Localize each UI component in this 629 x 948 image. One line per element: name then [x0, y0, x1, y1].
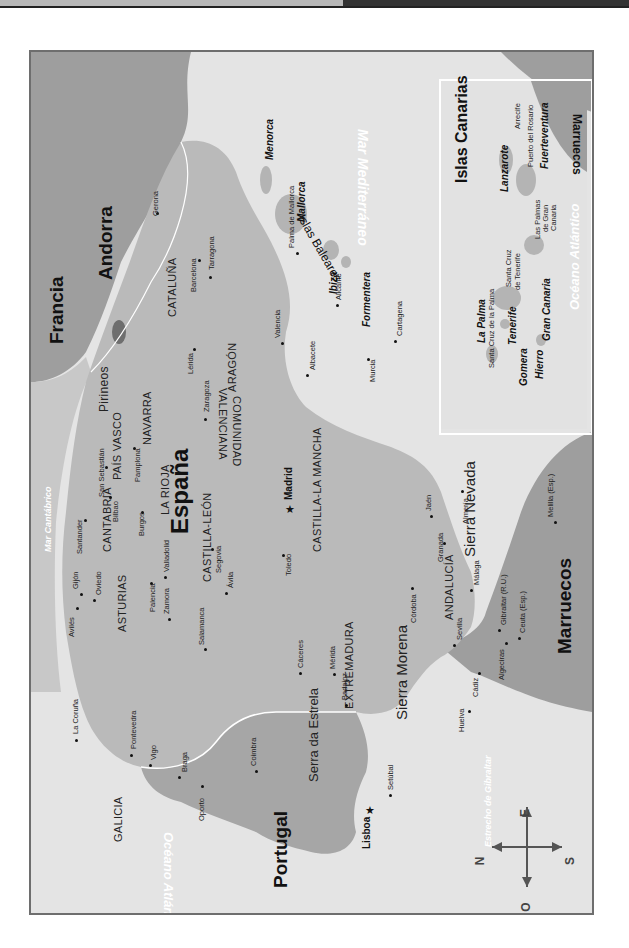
- city-label-pamplona: Pamplona: [133, 448, 142, 482]
- country-label-andorra: Andorra: [95, 206, 117, 280]
- region-label-comunidad: COMUNIDAD: [231, 396, 243, 467]
- city-label-gibraltar: Gibraltar (R.U.): [499, 574, 508, 625]
- city-label-avila: Ávila: [226, 572, 235, 588]
- city-dot-icon: [470, 589, 473, 592]
- island-label-gran-canaria: Gran Canaria: [541, 278, 552, 341]
- city-label-tarragona: Tarragona: [207, 236, 216, 270]
- city-label-malaga: Málaga: [472, 560, 481, 585]
- city-label-santa-cruz-palma: Santa Cruz de la Palma: [487, 289, 496, 368]
- city-label-zaragoza: Zaragoza: [202, 380, 211, 412]
- city-label-salamanca: Salamanca: [197, 607, 206, 645]
- region-label-aragon: ARAGÓN: [226, 343, 238, 392]
- city-dot-icon: [498, 629, 501, 632]
- map-frame: Francia Andorra España Portugal Marrueco…: [29, 50, 594, 915]
- city-label-coimbra: Coimbra: [249, 738, 258, 766]
- island-label-gomera: Gomera: [518, 348, 529, 386]
- island-label-hierro: Hierro: [534, 350, 545, 379]
- region-label-andalucia: ANDALUCÍA: [443, 554, 455, 620]
- capital-label-lisboa: Lisboa: [361, 817, 372, 849]
- city-label-algeciras: Algeciras: [497, 649, 506, 680]
- city-label-segovia: Segovia: [214, 546, 223, 573]
- city-dot-icon: [306, 374, 309, 377]
- canarias-inset: Islas Canarias Lanzarote Arrecife Puerto…: [439, 79, 593, 435]
- region-label-valenciana: VALENCIANA: [217, 388, 229, 460]
- island-label-menorca: Menorca: [264, 119, 275, 160]
- city-dot-icon: [193, 348, 196, 351]
- city-dot-icon: [168, 618, 171, 621]
- city-label-caceres: Cáceres: [296, 640, 305, 668]
- city-dot-icon: [198, 259, 201, 262]
- city-dot-icon: [149, 764, 152, 767]
- city-dot-icon: [84, 519, 87, 522]
- capital-star-icon-lisboa: ★: [365, 805, 375, 816]
- city-label-valencia: Valencia: [273, 310, 282, 338]
- country-label-morocco: Marruecos: [554, 558, 576, 654]
- city-label-arrecife: Arrecife: [513, 103, 522, 129]
- compass-rose: N S E O: [472, 792, 582, 902]
- city-dot-icon: [468, 710, 471, 713]
- city-dot-icon: [345, 704, 348, 707]
- city-label-braga: Braga: [180, 752, 189, 772]
- city-dot-icon: [178, 776, 181, 779]
- city-label-aviles: Avilés: [67, 617, 76, 637]
- city-label-lerida: Lérida: [186, 353, 195, 374]
- city-label-san-sebastian: San Sebastián: [97, 448, 106, 497]
- city-label-puerto-rosario: Puerto del Rosario: [526, 105, 535, 167]
- city-dot-icon: [204, 418, 207, 421]
- city-dot-icon: [505, 642, 508, 645]
- city-label-gijon: Gijón: [71, 571, 80, 589]
- city-label-cartagena: Cartagena: [395, 301, 404, 336]
- city-label-cordoba: Córdoba: [409, 594, 418, 623]
- city-dot-icon: [76, 607, 79, 610]
- city-dot-icon: [394, 340, 397, 343]
- island-label-formentera: Formentera: [361, 272, 372, 327]
- island-label-fuerteventura: Fuerteventura: [539, 102, 550, 169]
- country-label-france: Francia: [46, 276, 68, 344]
- city-label-santander: Santander: [75, 519, 84, 554]
- region-label-castilla-leon: CASTILLA-LEÓN: [201, 493, 213, 582]
- city-dot-icon: [80, 593, 83, 596]
- island-label-tenerife: Tenerife: [507, 306, 518, 345]
- city-dot-icon: [554, 521, 557, 524]
- city-label-oviedo: Oviedo: [94, 571, 103, 595]
- city-label-burgos: Burgos: [137, 512, 146, 536]
- city-label-valladolid: Valladolid: [162, 540, 171, 572]
- inset-title-islas-canarias: Islas Canarias: [453, 75, 471, 183]
- city-label-barcelona: Barcelona: [189, 258, 198, 292]
- region-label-asturias: ASTURIAS: [116, 575, 128, 632]
- island-label-lanzarote: Lanzarote: [499, 145, 510, 192]
- city-label-la-coruna: La Coruña: [71, 699, 80, 734]
- mountain-label-serra-estrela: Serra da Estrela: [306, 688, 321, 782]
- city-label-las-palmas-3: Canaria: [549, 205, 558, 231]
- city-dot-icon: [296, 252, 299, 255]
- city-label-merida: Mérida: [328, 646, 337, 669]
- region-label-pais-vasco: PAÍS VASCO: [111, 412, 123, 480]
- city-label-ceuta: Ceuta (Esp.): [518, 591, 527, 633]
- compass-label-n: N: [473, 857, 487, 866]
- city-dot-icon: [461, 490, 464, 493]
- region-label-cataluna: CATALUÑA: [166, 258, 178, 317]
- city-dot-icon: [201, 785, 204, 788]
- compass-label-s: S: [563, 857, 577, 865]
- compass-label-o: O: [519, 902, 533, 911]
- city-label-palma: Palma de Mallorca: [287, 186, 296, 248]
- mountain-label-sierra-morena: Sierra Morena: [393, 625, 410, 720]
- top-bar-divider: [0, 6, 629, 8]
- island-label-la-palma: La Palma: [476, 299, 487, 343]
- city-dot-icon: [430, 515, 433, 518]
- city-label-sevilla: Sevilla: [455, 618, 464, 640]
- city-dot-icon: [333, 673, 336, 676]
- city-label-bilbao: Bilbao: [111, 501, 120, 522]
- city-dot-icon: [299, 672, 302, 675]
- sea-label-atlantico: Océano Atlántico: [161, 832, 176, 915]
- city-label-setubal: Setúbal: [386, 765, 395, 790]
- city-label-almeria: Almería: [461, 498, 470, 524]
- city-dot-icon: [93, 599, 96, 602]
- compass-label-e: E: [518, 809, 532, 817]
- city-dot-icon: [518, 637, 521, 640]
- city-dot-icon: [281, 342, 284, 345]
- city-label-palencia: Palencia: [148, 583, 157, 612]
- city-label-melilla: Melilla (Esp.): [546, 474, 555, 517]
- region-label-galicia: GALICIA: [112, 796, 124, 842]
- sea-label-cantabrico: Mar Cantábrico: [43, 486, 53, 552]
